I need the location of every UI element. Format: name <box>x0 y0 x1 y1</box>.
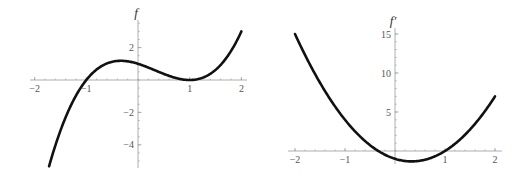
x-tick-label: 2 <box>239 83 244 94</box>
y-axis-title: f′ <box>390 13 397 28</box>
x-tick-label: 1 <box>187 83 192 94</box>
x-tick-label: −2 <box>290 154 301 165</box>
y-tick-label: −2 <box>123 107 134 118</box>
x-tick-label: −2 <box>29 83 40 94</box>
y-tick-label: 5 <box>386 107 391 118</box>
x-tick-label: 1 <box>443 154 448 165</box>
plot-f: −2−1122−2−4f <box>29 5 247 168</box>
x-tick-label: −1 <box>340 154 351 165</box>
plot-f-prime: −2−11251015f′ <box>288 13 502 165</box>
y-tick-label: 10 <box>381 68 391 79</box>
y-tick-label: 2 <box>129 42 134 53</box>
y-tick-label: −4 <box>123 139 134 150</box>
x-tick-label: 2 <box>493 154 498 165</box>
y-tick-label: 15 <box>381 29 391 40</box>
curve-f <box>49 31 241 166</box>
y-axis-title: f <box>134 5 140 20</box>
chart-figure: −2−1122−2−4f −2−11251015f′ <box>0 0 522 176</box>
